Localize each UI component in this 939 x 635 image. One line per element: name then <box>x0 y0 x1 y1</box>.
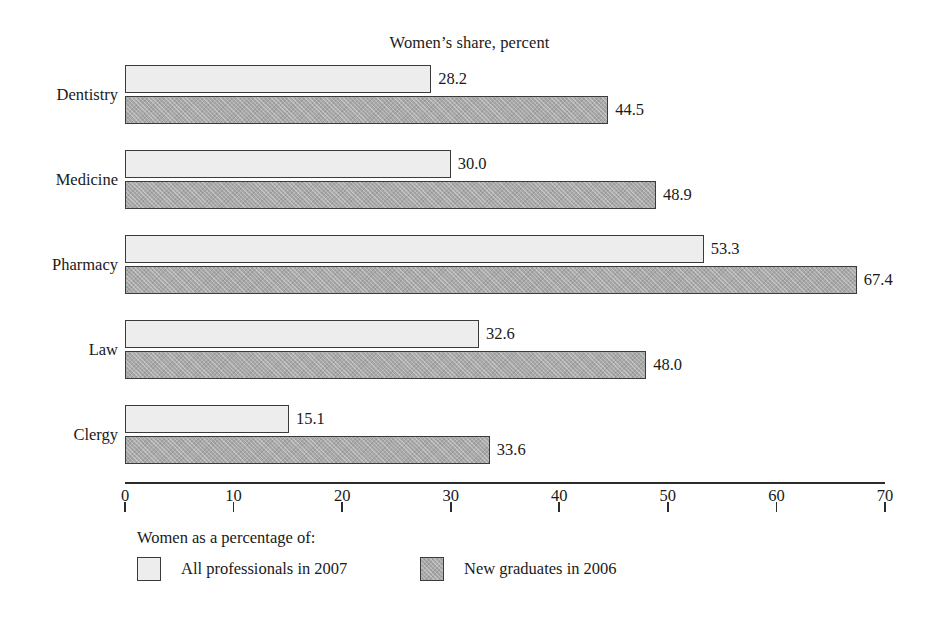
x-axis-tick-label: 0 <box>121 486 129 506</box>
bar-row: 30.0 <box>125 150 885 178</box>
bar-row: 15.1 <box>125 405 885 433</box>
bar-group: Law32.648.0 <box>125 320 885 379</box>
x-axis-ticks: 010203040506070 <box>125 472 885 512</box>
bar-value-label: 67.4 <box>857 270 893 290</box>
legend-title: Women as a percentage of: <box>137 528 837 548</box>
category-label: Clergy <box>73 425 118 445</box>
bar-row: 67.4 <box>125 266 885 294</box>
bar-row: 32.6 <box>125 320 885 348</box>
bar-value-label: 30.0 <box>451 154 487 174</box>
bar[interactable] <box>125 405 289 433</box>
bar-value-label: 28.2 <box>431 69 467 89</box>
bar-group: Medicine30.048.9 <box>125 150 885 209</box>
bar-value-label: 15.1 <box>289 409 325 429</box>
x-axis-line <box>125 482 885 484</box>
bar[interactable] <box>125 351 646 379</box>
bar-row: 53.3 <box>125 235 885 263</box>
bar-value-label: 33.6 <box>490 440 526 460</box>
bar-value-label: 53.3 <box>704 239 740 259</box>
bar[interactable] <box>125 320 479 348</box>
bar-value-label: 32.6 <box>479 324 515 344</box>
category-label: Law <box>89 340 118 360</box>
bar-row: 48.9 <box>125 181 885 209</box>
x-axis-tick-label: 50 <box>660 486 677 506</box>
bar-row: 44.5 <box>125 96 885 124</box>
bar[interactable] <box>125 266 857 294</box>
bar[interactable] <box>125 181 656 209</box>
bar[interactable] <box>125 436 490 464</box>
bar-chart-figure: Women’s share, percent Dentistry28.244.5… <box>0 0 939 635</box>
bar-row: 48.0 <box>125 351 885 379</box>
legend-item[interactable]: All professionals in 2007 <box>137 557 347 581</box>
legend-item[interactable]: New graduates in 2006 <box>420 557 617 581</box>
plot-area: Dentistry28.244.5Medicine30.048.9Pharmac… <box>125 62 885 482</box>
chart-title: Women’s share, percent <box>0 33 939 53</box>
bar-value-label: 48.9 <box>656 185 692 205</box>
bar-value-label: 44.5 <box>608 100 644 120</box>
category-label: Medicine <box>56 170 118 190</box>
bar-value-label: 48.0 <box>646 355 682 375</box>
bar[interactable] <box>125 150 451 178</box>
x-axis-tick-label: 20 <box>334 486 351 506</box>
legend-items: All professionals in 2007New graduates i… <box>137 557 837 587</box>
bar-row: 28.2 <box>125 65 885 93</box>
bar-group: Pharmacy53.367.4 <box>125 235 885 294</box>
bar-group: Clergy15.133.6 <box>125 405 885 464</box>
chart-legend: Women as a percentage of: All profession… <box>137 528 837 587</box>
category-label: Pharmacy <box>52 255 118 275</box>
bar[interactable] <box>125 96 608 124</box>
x-axis-tick-label: 10 <box>225 486 242 506</box>
bar[interactable] <box>125 65 431 93</box>
x-axis-tick-label: 30 <box>442 486 459 506</box>
legend-label: New graduates in 2006 <box>464 559 617 579</box>
x-axis-tick-label: 70 <box>877 486 894 506</box>
legend-swatch <box>420 557 444 581</box>
category-label: Dentistry <box>57 85 118 105</box>
legend-swatch <box>137 557 161 581</box>
bar[interactable] <box>125 235 704 263</box>
x-axis-tick-label: 60 <box>768 486 785 506</box>
legend-label: All professionals in 2007 <box>181 559 347 579</box>
bar-row: 33.6 <box>125 436 885 464</box>
x-axis-tick-label: 40 <box>551 486 568 506</box>
bar-group: Dentistry28.244.5 <box>125 65 885 124</box>
